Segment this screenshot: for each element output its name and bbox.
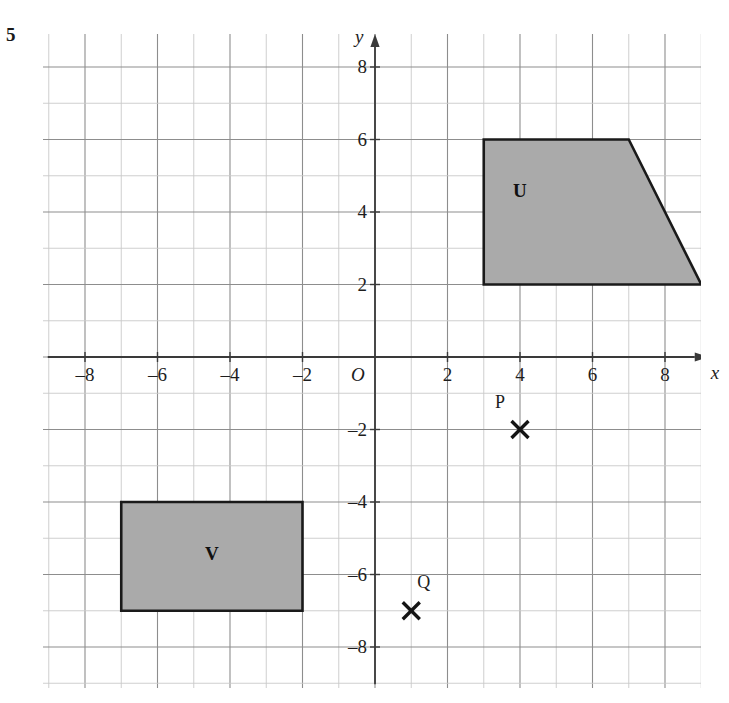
y-tick-label--4: –4 <box>333 492 367 511</box>
shapes-and-axes-layer <box>43 34 701 688</box>
point-label-q: Q <box>417 573 430 591</box>
x-tick-label--2: –2 <box>283 365 323 384</box>
x-tick-label--8: –8 <box>65 365 105 384</box>
point-label-p: P <box>495 393 505 411</box>
y-tick-label-8: 8 <box>333 57 367 76</box>
question-number: 5 <box>6 24 16 46</box>
x-tick-label-6: 6 <box>573 365 613 384</box>
y-tick-label--8: –8 <box>333 637 367 656</box>
coordinate-grid-diagram: –8–6–4–224688642–2–4–6–8OxyUVPQ <box>43 34 701 688</box>
origin-label: O <box>351 365 365 384</box>
shape-label-v: V <box>205 544 219 563</box>
shape-u <box>484 140 701 285</box>
y-tick-label-6: 6 <box>333 130 367 149</box>
point-q-cross-marker <box>403 602 420 619</box>
x-tick-label-2: 2 <box>428 365 468 384</box>
x-axis-label: x <box>711 363 719 382</box>
y-axis-label: y <box>355 27 363 46</box>
x-tick-label--6: –6 <box>138 365 178 384</box>
y-tick-label-2: 2 <box>333 275 367 294</box>
y-tick-label--6: –6 <box>333 565 367 584</box>
y-tick-label-4: 4 <box>333 202 367 221</box>
point-p-cross-marker <box>512 421 529 438</box>
x-tick-label-4: 4 <box>500 365 540 384</box>
shape-label-u: U <box>513 181 527 200</box>
x-tick-label-8: 8 <box>645 365 685 384</box>
y-tick-label--2: –2 <box>333 420 367 439</box>
x-tick-label--4: –4 <box>210 365 250 384</box>
